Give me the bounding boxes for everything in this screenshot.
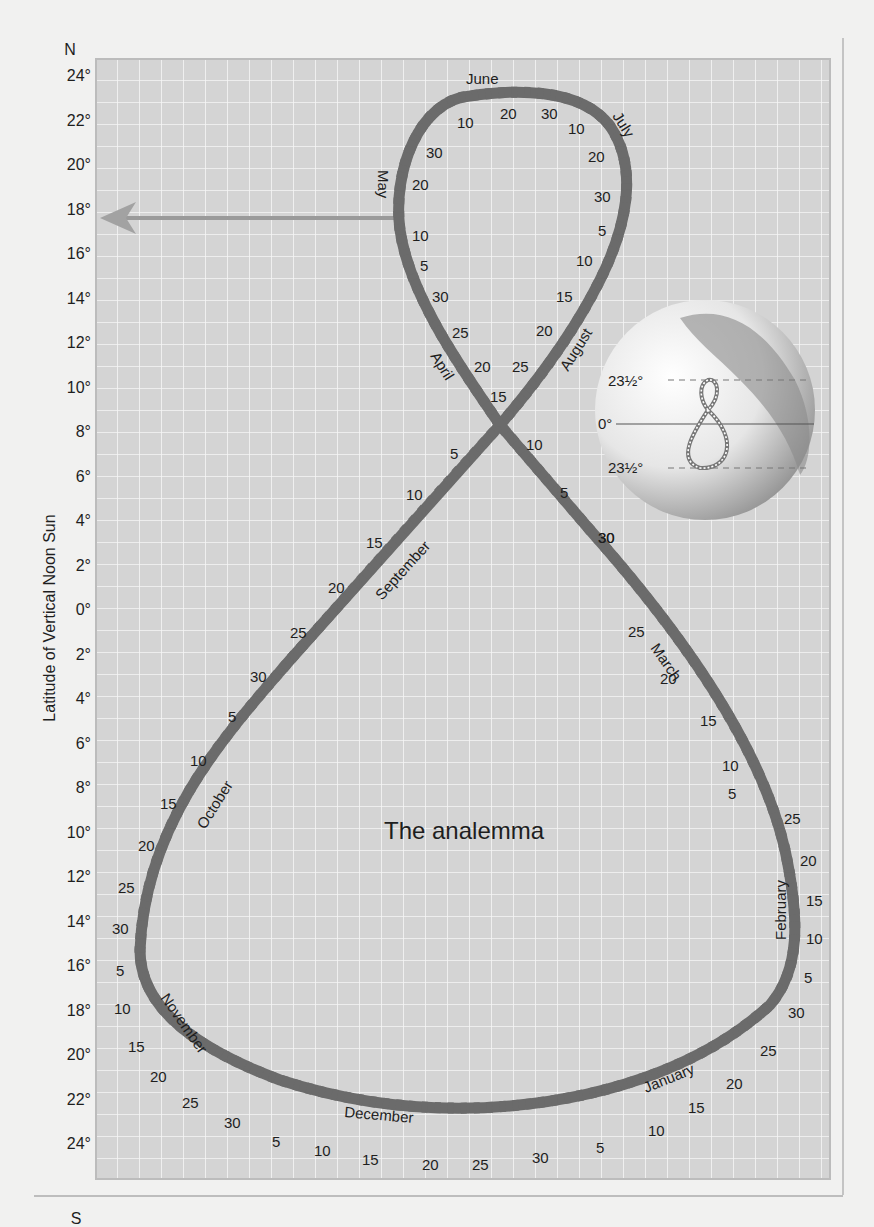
svg-text:30: 30 xyxy=(250,668,267,685)
svg-text:15: 15 xyxy=(160,795,177,812)
svg-text:20: 20 xyxy=(150,1068,167,1085)
svg-text:10: 10 xyxy=(722,757,739,774)
svg-text:25: 25 xyxy=(784,810,801,827)
globe-equator-label: 0° xyxy=(598,415,612,432)
svg-text:5: 5 xyxy=(804,969,812,986)
y-tick-label: 22° xyxy=(67,1091,91,1108)
svg-text:20: 20 xyxy=(536,322,553,339)
svg-text:15: 15 xyxy=(700,712,717,729)
svg-text:20: 20 xyxy=(474,358,491,375)
svg-text:5: 5 xyxy=(596,1139,604,1156)
y-tick-label: 18° xyxy=(67,201,91,218)
svg-text:20: 20 xyxy=(138,837,155,854)
svg-text:20: 20 xyxy=(500,105,517,122)
svg-text:10: 10 xyxy=(576,252,593,269)
north-label: N xyxy=(64,41,76,58)
y-tick-label: 12° xyxy=(67,868,91,885)
y-axis-title: Latitude of Vertical Noon Sun xyxy=(41,514,58,721)
globe-tropic-south-label: 23½° xyxy=(608,459,643,476)
svg-text:30: 30 xyxy=(426,144,443,161)
y-tick-label: 12° xyxy=(67,334,91,351)
svg-text:5: 5 xyxy=(116,962,124,979)
svg-text:20: 20 xyxy=(328,579,345,596)
svg-text:20: 20 xyxy=(422,1156,439,1173)
y-tick-label: 24° xyxy=(67,67,91,84)
y-tick-label: 0° xyxy=(76,601,91,618)
svg-text:25: 25 xyxy=(760,1042,777,1059)
svg-text:10: 10 xyxy=(648,1122,665,1139)
inset-globe: 23½° 0° 23½° xyxy=(595,300,815,520)
svg-text:10: 10 xyxy=(412,227,429,244)
svg-text:10: 10 xyxy=(114,1000,131,1017)
y-tick-label: 10° xyxy=(67,379,91,396)
south-label: S xyxy=(71,1210,82,1227)
y-tick-label: 2° xyxy=(76,646,91,663)
svg-text:20: 20 xyxy=(588,148,605,165)
svg-text:20: 20 xyxy=(800,852,817,869)
svg-text:10: 10 xyxy=(526,436,543,453)
svg-text:10: 10 xyxy=(314,1142,331,1159)
svg-text:5: 5 xyxy=(272,1133,280,1150)
y-tick-label: 6° xyxy=(76,735,91,752)
y-tick-label: 16° xyxy=(67,957,91,974)
y-tick-label: 22° xyxy=(67,112,91,129)
svg-text:25: 25 xyxy=(182,1094,199,1111)
svg-text:30: 30 xyxy=(594,188,611,205)
svg-text:10: 10 xyxy=(406,486,423,503)
svg-text:25: 25 xyxy=(472,1156,489,1173)
svg-text:20: 20 xyxy=(660,670,677,687)
svg-text:15: 15 xyxy=(362,1151,379,1168)
y-tick-label: 18° xyxy=(67,1002,91,1019)
svg-text:5: 5 xyxy=(228,708,236,725)
svg-text:25: 25 xyxy=(118,879,135,896)
svg-text:15: 15 xyxy=(556,288,573,305)
svg-text:30: 30 xyxy=(112,920,129,937)
month-february: February xyxy=(772,879,789,940)
svg-text:10: 10 xyxy=(457,114,474,131)
svg-text:25: 25 xyxy=(628,623,645,640)
svg-text:10: 10 xyxy=(190,752,207,769)
svg-text:5: 5 xyxy=(728,785,736,802)
svg-text:30: 30 xyxy=(598,529,615,546)
svg-text:15: 15 xyxy=(490,388,507,405)
svg-text:25: 25 xyxy=(512,358,529,375)
svg-text:5: 5 xyxy=(560,484,568,501)
svg-text:10: 10 xyxy=(806,930,823,947)
svg-text:30: 30 xyxy=(224,1114,241,1131)
y-tick-label: 4° xyxy=(76,512,91,529)
svg-text:30: 30 xyxy=(532,1149,549,1166)
y-tick-label: 8° xyxy=(76,423,91,440)
y-tick-label: 4° xyxy=(76,690,91,707)
y-tick-label: 16° xyxy=(67,245,91,262)
svg-text:25: 25 xyxy=(290,624,307,641)
svg-text:30: 30 xyxy=(541,105,558,122)
y-tick-label: 2° xyxy=(76,557,91,574)
svg-text:30: 30 xyxy=(788,1004,805,1021)
globe-tropic-north-label: 23½° xyxy=(608,372,643,389)
svg-text:20: 20 xyxy=(412,176,429,193)
y-axis: N S 24°22°20°18°16°14°12°10°8°6°4°2°0°2°… xyxy=(41,41,91,1227)
month-june: June xyxy=(466,70,499,87)
month-may: May xyxy=(375,170,392,199)
y-tick-label: 8° xyxy=(76,779,91,796)
y-tick-label: 6° xyxy=(76,468,91,485)
y-tick-label: 20° xyxy=(67,156,91,173)
y-tick-label: 20° xyxy=(67,1046,91,1063)
grid-area xyxy=(96,59,830,1179)
svg-text:30: 30 xyxy=(432,288,449,305)
svg-text:5: 5 xyxy=(598,222,606,239)
y-tick-label: 14° xyxy=(67,290,91,307)
svg-text:5: 5 xyxy=(450,445,458,462)
svg-text:15: 15 xyxy=(128,1038,145,1055)
svg-text:20: 20 xyxy=(726,1075,743,1092)
analemma-figure: N S 24°22°20°18°16°14°12°10°8°6°4°2°0°2°… xyxy=(0,0,874,1227)
svg-text:15: 15 xyxy=(806,892,823,909)
svg-text:5: 5 xyxy=(420,257,428,274)
y-tick-label: 14° xyxy=(67,913,91,930)
svg-text:15: 15 xyxy=(688,1099,705,1116)
figure-title: The analemma xyxy=(384,817,545,844)
y-tick-label: 10° xyxy=(67,824,91,841)
svg-text:10: 10 xyxy=(568,120,585,137)
svg-text:25: 25 xyxy=(452,324,469,341)
svg-text:15: 15 xyxy=(366,534,383,551)
